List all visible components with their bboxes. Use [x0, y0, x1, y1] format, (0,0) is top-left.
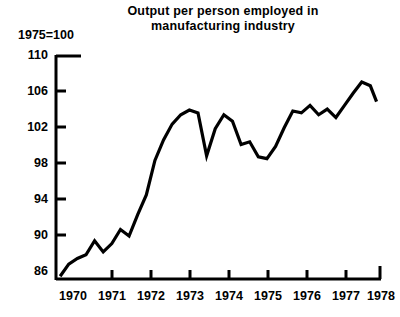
x-tick-marks	[112, 266, 380, 279]
data-series-line	[60, 82, 376, 276]
